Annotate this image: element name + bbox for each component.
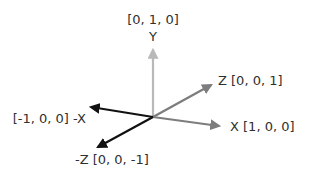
y-axis-label: Y	[148, 29, 157, 44]
z-axis-label: Z [0, 0, 1]	[218, 73, 283, 88]
neg-x-axis-arrow	[91, 107, 153, 117]
neg-x-axis-label: [-1, 0, 0] -X	[13, 111, 86, 126]
y-axis-vector-label: [0, 1, 0]	[127, 12, 179, 27]
neg-z-axis-arrow	[98, 117, 153, 147]
z-axis-arrow	[153, 85, 211, 117]
x-axis-label: X [1, 0, 0]	[230, 119, 295, 134]
coordinate-axes-diagram: [0, 1, 0] Y Z [0, 0, 1] X [1, 0, 0] [-1,…	[0, 0, 310, 178]
x-axis-arrow	[153, 117, 219, 126]
neg-z-axis-label: -Z [0, 0, -1]	[75, 152, 149, 167]
